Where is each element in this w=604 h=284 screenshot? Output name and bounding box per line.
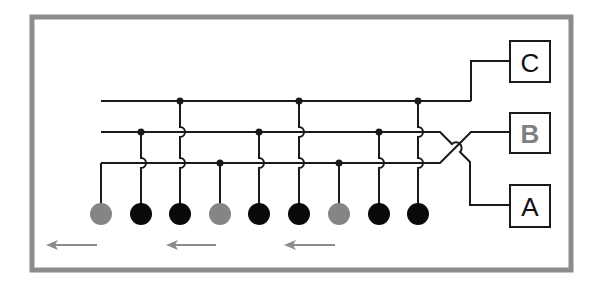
wire-to-c	[471, 61, 510, 101]
terminal-nodes	[90, 203, 429, 225]
junction-dot	[217, 160, 224, 167]
wire-to-a	[430, 132, 510, 205]
black-terminal-node-8	[368, 203, 390, 225]
drop-wire-9	[418, 101, 423, 214]
drop-wire-6	[299, 101, 304, 214]
box-label: B	[521, 119, 540, 149]
junction-dot	[336, 160, 343, 167]
gray-terminal-node-4	[209, 203, 231, 225]
junction-dot	[177, 98, 184, 105]
gray-terminal-node-7	[328, 203, 350, 225]
box-c: C	[510, 41, 550, 82]
drop-wire-3	[180, 101, 185, 214]
left-arrow-icon-1	[46, 240, 97, 250]
box-label: C	[521, 48, 540, 78]
diagram-frame	[32, 17, 571, 270]
drop-wire-2	[141, 132, 146, 214]
drop-wire-8	[379, 132, 384, 214]
direction-arrows	[46, 240, 335, 250]
wires	[101, 61, 510, 214]
junction-dot	[256, 129, 263, 136]
drop-wire-5	[259, 132, 264, 214]
black-terminal-node-6	[288, 203, 310, 225]
junction-dot	[415, 98, 422, 105]
box-label: A	[521, 192, 539, 222]
bus-wiring-diagram: CBA	[0, 0, 604, 284]
black-terminal-node-3	[169, 203, 191, 225]
left-arrow-icon-3	[284, 240, 335, 250]
black-terminal-node-5	[248, 203, 270, 225]
gray-terminal-node-1	[90, 203, 112, 225]
output-boxes: CBA	[510, 41, 550, 227]
box-b: B	[510, 113, 550, 153]
junction-dot	[296, 98, 303, 105]
black-terminal-node-9	[407, 203, 429, 225]
box-a: A	[510, 185, 550, 227]
wire-to-b	[430, 132, 510, 163]
left-arrow-icon-2	[166, 240, 216, 250]
black-terminal-node-2	[130, 203, 152, 225]
junction-dot	[138, 129, 145, 136]
junction-dot	[376, 129, 383, 136]
